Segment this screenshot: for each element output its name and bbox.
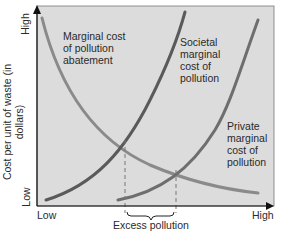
- label-abatement: Marginal cost of pollution abatement: [63, 30, 125, 66]
- label-private: Private marginal cost of pollution: [227, 120, 267, 168]
- y-axis-label: Cost per unit of waste (in dollars): [1, 47, 25, 197]
- label-excess-pollution: Excess pollution: [113, 219, 189, 231]
- label-societal: Societal marginal cost of pollution: [180, 36, 220, 84]
- chart-canvas: [0, 0, 282, 234]
- y-tick-high: High: [19, 13, 31, 35]
- x-tick-low: Low: [37, 209, 56, 221]
- x-tick-high: High: [252, 209, 274, 221]
